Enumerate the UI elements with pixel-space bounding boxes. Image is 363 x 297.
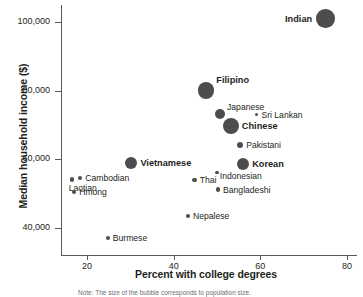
data-point-label: Sri Lankan: [261, 110, 302, 120]
data-point-bubble[interactable]: [255, 113, 258, 116]
x-tick-mark: [174, 255, 175, 260]
data-point-bubble[interactable]: [198, 82, 214, 98]
data-point-label: Pakistani: [246, 140, 281, 150]
data-point-bubble[interactable]: [70, 177, 74, 181]
scatter-chart: Median household income ($) Percent with…: [0, 0, 363, 297]
data-point-label: Vietnamese: [140, 158, 191, 168]
data-point-bubble[interactable]: [237, 142, 243, 148]
y-axis-spine: [61, 5, 62, 255]
data-point-bubble[interactable]: [316, 9, 334, 27]
y-tick-mark: [55, 22, 61, 23]
data-point-label: Thai: [200, 175, 217, 185]
y-tick-mark: [55, 228, 61, 229]
data-point-label: Hmong: [79, 187, 107, 197]
x-tick-label: 40: [154, 261, 194, 271]
data-point-bubble[interactable]: [237, 158, 249, 170]
x-tick-mark: [260, 255, 261, 260]
data-point-label: Filipino: [216, 75, 249, 85]
data-point-label: Japanese: [227, 102, 264, 112]
data-point-bubble[interactable]: [215, 171, 219, 175]
data-point-label: Indonesian: [220, 171, 262, 181]
y-tick-label: 80,000: [5, 85, 50, 95]
y-tick-mark: [55, 91, 61, 92]
data-point-bubble[interactable]: [186, 214, 190, 218]
chart-note: Note: The size of the bubble corresponds…: [78, 289, 358, 297]
x-tick-label: 80: [327, 261, 363, 271]
data-point-bubble[interactable]: [125, 157, 137, 169]
data-point-bubble[interactable]: [223, 118, 239, 134]
data-point-label: Nepalese: [193, 211, 229, 221]
y-tick-label: 100,000: [5, 16, 50, 26]
data-point-bubble[interactable]: [192, 178, 196, 182]
data-point-bubble[interactable]: [78, 176, 82, 180]
x-axis-spine: [61, 255, 357, 256]
data-point-label: Korean: [252, 159, 284, 169]
data-point-bubble[interactable]: [216, 187, 220, 191]
data-point-bubble[interactable]: [215, 109, 225, 119]
y-tick-mark: [55, 159, 61, 160]
y-tick-label: 40,000: [5, 222, 50, 232]
x-tick-mark: [347, 255, 348, 260]
x-tick-label: 20: [67, 261, 107, 271]
x-tick-label: 60: [240, 261, 280, 271]
x-tick-mark: [87, 255, 88, 260]
data-point-label: Burmese: [113, 233, 147, 243]
data-point-label: Indian: [285, 14, 312, 24]
data-point-label: Bangladeshi: [223, 185, 270, 195]
data-point-bubble[interactable]: [72, 190, 76, 194]
y-tick-label: 60,000: [5, 153, 50, 163]
data-point-bubble[interactable]: [106, 236, 110, 240]
y-axis-title: Median household income ($): [17, 21, 29, 251]
data-point-label: Chinese: [242, 121, 278, 131]
